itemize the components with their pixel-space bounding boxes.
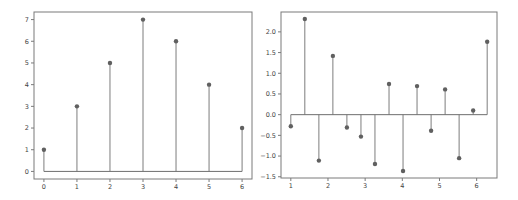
x-tick-label: 6 [240, 183, 244, 191]
data-point-marker [401, 169, 405, 173]
x-tick-label: 1 [289, 182, 293, 190]
data-point-marker [331, 54, 335, 58]
data-point-marker [345, 125, 349, 129]
y-tick-label: 0 [25, 168, 29, 176]
data-point-marker [174, 39, 178, 43]
y-tick-label: 2 [25, 124, 29, 132]
data-point-marker [457, 156, 461, 160]
x-tick-label: 4 [174, 183, 178, 191]
data-point-marker [373, 162, 377, 166]
x-tick-label: 5 [207, 183, 211, 191]
data-point-marker [359, 134, 363, 138]
y-tick-label: 1 [25, 146, 29, 154]
left-stem-chart: 012345601234567 [25, 12, 252, 191]
data-point-marker [443, 87, 447, 91]
x-tick-label: 2 [108, 183, 112, 191]
y-tick-label: 2.0 [266, 28, 276, 36]
data-point-marker [289, 124, 293, 128]
x-tick-label: 6 [475, 182, 479, 190]
data-point-marker [207, 82, 211, 86]
data-point-marker [75, 104, 79, 108]
data-point-marker [141, 17, 145, 21]
data-point-marker [429, 129, 433, 133]
data-point-marker [42, 148, 46, 152]
y-tick-label: 7 [25, 16, 29, 24]
x-tick-label: 5 [437, 182, 441, 190]
y-tick-label: −0.5 [260, 132, 276, 140]
y-tick-label: 4 [25, 81, 29, 89]
y-tick-label: 3 [25, 103, 29, 111]
x-tick-label: 0 [42, 183, 46, 191]
y-tick-label: 5 [25, 59, 29, 67]
y-tick-label: 0.5 [266, 90, 276, 98]
y-tick-label: −1.5 [260, 173, 276, 181]
stem-plot-figure: 012345601234567 123456−1.5−1.0−0.50.00.5… [0, 0, 518, 200]
data-point-marker [415, 84, 419, 88]
data-point-marker [317, 158, 321, 162]
y-tick-label: −1.0 [260, 152, 276, 160]
data-point-marker [240, 126, 244, 130]
data-point-marker [303, 17, 307, 21]
data-point-marker [108, 61, 112, 65]
x-tick-label: 3 [141, 183, 145, 191]
data-point-marker [387, 82, 391, 86]
y-tick-label: 1.5 [266, 49, 276, 57]
x-tick-label: 1 [75, 183, 79, 191]
y-tick-label: 6 [25, 38, 29, 46]
data-point-marker [485, 40, 489, 44]
x-tick-label: 3 [363, 182, 367, 190]
y-tick-label: 1.0 [266, 70, 276, 78]
x-tick-label: 4 [400, 182, 404, 190]
right-stem-chart: 123456−1.5−1.0−0.50.00.51.01.52.0 [260, 12, 497, 190]
y-tick-label: 0.0 [266, 111, 276, 119]
x-tick-label: 2 [326, 182, 330, 190]
data-point-marker [471, 108, 475, 112]
